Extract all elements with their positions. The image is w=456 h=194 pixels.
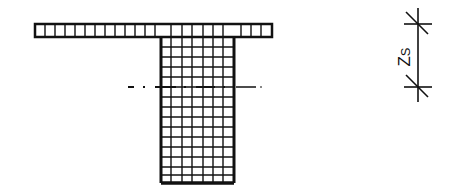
dimension-symbol: Z (395, 56, 414, 66)
t-beam-diagram (0, 0, 456, 194)
dimension-label-zs: ZS (395, 42, 415, 72)
web-grid (161, 37, 234, 183)
web (161, 37, 234, 183)
flange-grid (45, 24, 261, 37)
flange (35, 24, 272, 37)
dimension-subscript: S (398, 47, 413, 56)
